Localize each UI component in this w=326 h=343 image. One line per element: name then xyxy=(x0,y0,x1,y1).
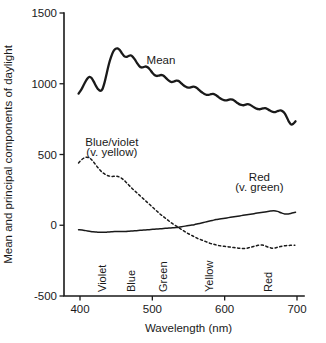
y-axis-title: Mean and principal components of dayligh… xyxy=(2,44,14,263)
y-tick-label: 0 xyxy=(51,219,57,231)
y-tick-label: -500 xyxy=(34,290,57,302)
band-label: Blue xyxy=(125,270,137,292)
y-tick-label: 1000 xyxy=(31,78,57,90)
x-tick-label: 600 xyxy=(215,303,234,315)
series-annotation: (v. green) xyxy=(235,181,284,193)
band-label: Violet xyxy=(96,265,108,292)
daylight-spectrum-chart: -500050010001500Mean and principal compo… xyxy=(0,0,326,343)
y-tick-label: 1500 xyxy=(31,7,57,19)
x-axis: 400500600700Wavelength (nm) xyxy=(70,296,306,334)
series-curve-red-v-green xyxy=(79,211,296,233)
x-tick-label: 700 xyxy=(287,303,306,315)
x-tick-label: 400 xyxy=(70,303,89,315)
series-curve-mean xyxy=(79,48,296,124)
annotations: MeanBlue/violet(v. yellow)Red(v. green) xyxy=(85,54,283,193)
chart-svg: -500050010001500Mean and principal compo… xyxy=(0,0,326,343)
band-label: Green xyxy=(157,261,169,292)
y-tick-label: 500 xyxy=(38,149,57,161)
band-labels: VioletBlueGreenYellowRed xyxy=(96,261,274,292)
series-annotation: (v. yellow) xyxy=(86,146,137,158)
band-label: Red xyxy=(262,272,274,292)
y-axis: -500050010001500Mean and principal compo… xyxy=(2,7,64,302)
x-axis-title: Wavelength (nm) xyxy=(145,322,232,334)
series-annotation: Mean xyxy=(147,54,176,66)
band-label: Yellow xyxy=(203,261,215,292)
x-tick-label: 500 xyxy=(143,303,162,315)
